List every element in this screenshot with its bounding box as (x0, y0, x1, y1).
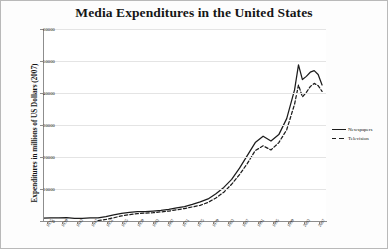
legend-item-newspapers: Newspapers (332, 125, 388, 134)
y-tick-label: 50000 (15, 59, 55, 64)
gridline (43, 189, 326, 190)
chart-legend: Newspapers Television (332, 125, 388, 143)
legend-label: Television (348, 136, 369, 141)
legend-label: Newspapers (348, 127, 372, 132)
y-axis-title: Expenditures in millions of US Dollars (… (31, 43, 39, 223)
gridline (43, 125, 326, 126)
legend-line-solid-icon (332, 127, 346, 133)
y-tick-label: 60000 (15, 27, 55, 32)
y-tick-label: 10000 (15, 187, 55, 192)
plot-area (43, 29, 326, 221)
y-tick-label: 20000 (15, 155, 55, 160)
series-line-television (98, 83, 322, 220)
y-tick-label: 40000 (15, 91, 55, 96)
chart-title: Media Expenditures in the United States (1, 5, 387, 21)
gridline (43, 93, 326, 94)
gridline (43, 157, 326, 158)
chart-figure: Media Expenditures in the United States … (0, 0, 388, 249)
legend-line-dashed-icon (332, 136, 346, 142)
series-line-newspapers (43, 65, 322, 219)
y-tick-label: 30000 (15, 123, 55, 128)
gridline (43, 29, 326, 30)
gridline (43, 61, 326, 62)
legend-item-television: Television (332, 134, 388, 143)
